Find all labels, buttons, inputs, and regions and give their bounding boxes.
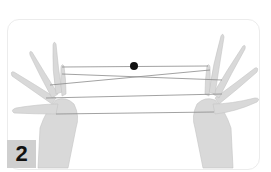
step-number-badge: 2	[7, 140, 36, 168]
bead-icon	[130, 62, 138, 70]
hands-string-illustration	[0, 0, 271, 172]
right-hand	[193, 34, 258, 168]
